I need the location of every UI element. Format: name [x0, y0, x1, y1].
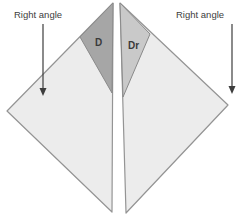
geometry-diagram: D Dr Right angle Right angle — [0, 0, 236, 218]
right-down-arrowhead-icon — [229, 86, 236, 94]
right-angle-label-left: Right angle — [14, 9, 62, 20]
right-down-arrow — [229, 24, 236, 94]
right-angle-label-right: Right angle — [176, 9, 224, 20]
dr-label: Dr — [128, 40, 139, 51]
d-label: D — [95, 37, 102, 48]
diagram-canvas: D Dr Right angle Right angle — [0, 0, 236, 218]
